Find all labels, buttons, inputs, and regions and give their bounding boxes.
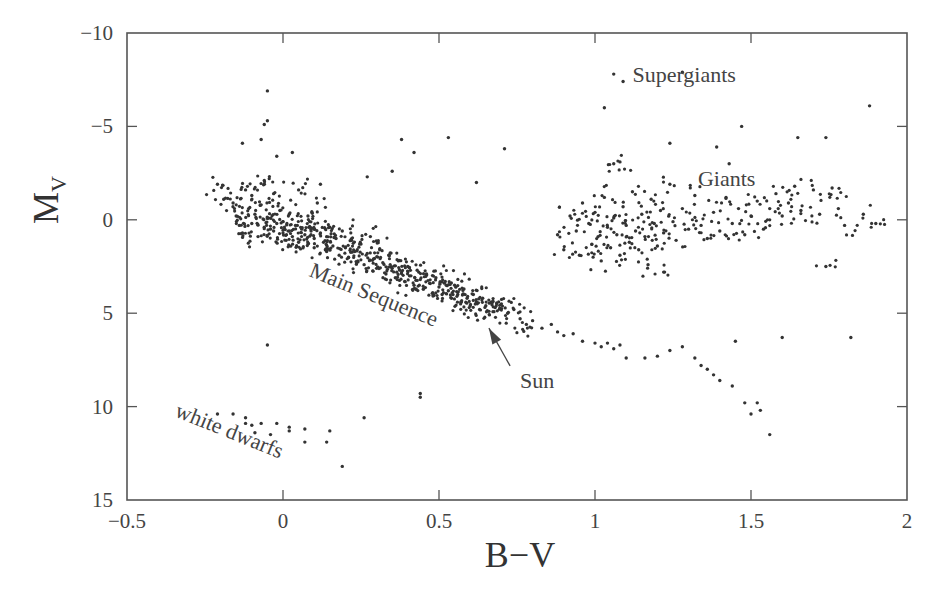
y-axis-title-main: M [26,192,66,224]
y-tick-label: −10 [80,21,113,45]
svg-text:MV: MV [26,176,71,224]
annotation-sun: Sun [520,368,554,393]
y-tick-label: 5 [103,301,114,325]
x-tick-label: −0.5 [108,509,146,533]
annotation-white-dwarfs: white dwarfs [172,397,287,463]
hr-diagram: −0.500.511.52 −10−5051015 SupergiantsGia… [0,0,935,591]
y-axis-title-sub: V [46,176,71,192]
annotations: SupergiantsGiantsMain Sequencewhite dwar… [172,62,755,464]
annotation-main-sequence: Main Sequence [306,257,442,331]
annotation-supergiants: Supergiants [632,62,735,87]
annotation-giants: Giants [698,166,755,191]
y-tick-label: 0 [103,208,114,232]
y-tick-label: −5 [91,114,113,138]
x-axis-title: B−V [485,535,555,575]
y-axis-ticks: −10−5051015 [80,21,907,512]
x-tick-label: 1 [590,509,601,533]
x-tick-label: 1.5 [738,509,764,533]
x-tick-label: 0 [278,509,289,533]
y-tick-label: 15 [92,488,113,512]
scatter-points [205,71,886,469]
y-axis-title: MV [26,176,71,224]
y-tick-label: 10 [92,395,113,419]
x-tick-label: 0.5 [426,509,452,533]
x-tick-label: 2 [902,509,913,533]
x-axis-ticks: −0.500.511.52 [108,33,912,533]
arrow-head-icon [489,328,501,344]
